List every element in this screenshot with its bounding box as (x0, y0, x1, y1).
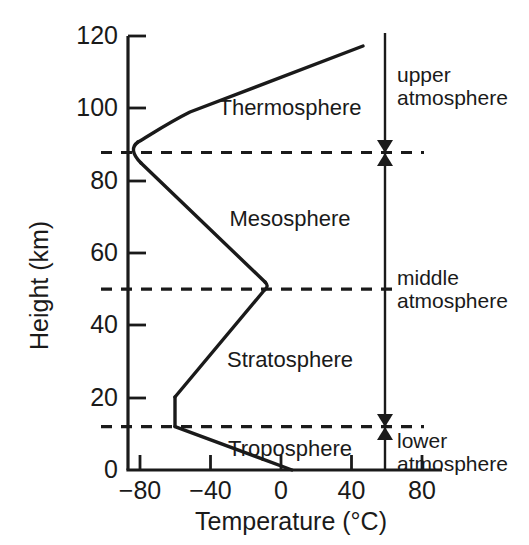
y-tick-label-100: 100 (34, 94, 118, 121)
bowtie-lower-triangle (377, 427, 393, 440)
x-tick-label-40: 40 (312, 477, 392, 504)
layer-label-mesosphere: Mesosphere (208, 207, 372, 230)
y-tick-label-120: 120 (34, 22, 118, 49)
region-label-middle-line2: atmosphere (397, 290, 508, 312)
profile-thermosphere (138, 46, 363, 142)
atmosphere-temperature-profile-figure: 120 100 80 60 40 20 0 −80 −40 0 40 80 He… (0, 0, 529, 545)
x-tick-label-minus40: −40 (171, 477, 251, 504)
y-tick-label-20: 20 (34, 384, 118, 411)
layer-label-thermosphere: Thermosphere (205, 96, 375, 119)
bowtie-lower-triangle (377, 153, 393, 166)
atmosphere-region-bracket (377, 33, 393, 470)
layer-label-troposphere: Troposphere (208, 437, 372, 460)
x-tick-label-0: 0 (241, 477, 321, 504)
region-label-upper-line2: atmosphere (397, 87, 508, 109)
x-tick-label-80: 80 (382, 477, 462, 504)
x-axis-title: Temperature (°C) (195, 508, 387, 535)
region-label-lower-line1: lower (397, 430, 447, 452)
layer-label-stratosphere: Stratosphere (205, 348, 375, 371)
profile-mesopause-cap (133, 142, 141, 163)
region-label-middle-line1: middle (397, 267, 459, 289)
y-axis-title: Height (km) (26, 221, 53, 350)
region-label-lower-line2: atmosphere (397, 453, 508, 475)
boundary-dashed-lines (101, 153, 424, 427)
x-tick-label-minus80: −80 (100, 477, 180, 504)
profile-stratosphere (175, 290, 265, 397)
y-tick-label-80: 80 (34, 167, 118, 194)
region-label-upper-line1: upper (397, 64, 451, 86)
y-axis-ticks (128, 36, 146, 398)
